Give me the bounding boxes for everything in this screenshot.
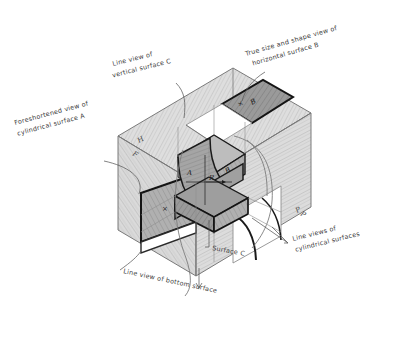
annotation-line-view-vertical-c: Line view of vertical surface C [109,46,173,79]
annotation-true-size-b: True size and shape view of horizontal s… [243,23,343,68]
surface-label-a: A [186,169,192,177]
center-mark-front: × [162,205,168,213]
technical-drawing-figure: H F P B × × B [0,0,393,341]
annotation-foreshortened-a: Foreshortened view of cylindrical surfac… [13,99,94,138]
annotation-line-views-cylindrical: Line views of cylindrical surfaces [292,219,362,254]
